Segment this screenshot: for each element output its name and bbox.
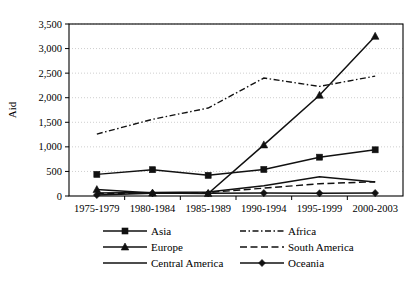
x-axis-ticks: 1975-19791980-19841985-19891990-19941995… xyxy=(74,196,398,214)
legend-item-south-america[interactable]: South America xyxy=(240,241,354,253)
y-tick-label: 1,500 xyxy=(38,117,62,128)
x-tick-label: 1990-1994 xyxy=(241,203,287,214)
series-asia xyxy=(94,147,378,179)
x-tick-label: 1995-1999 xyxy=(297,203,343,214)
y-tick-label: 3,500 xyxy=(38,19,62,30)
marker-square xyxy=(261,166,267,172)
aid-line-chart: 05001,0001,5002,0002,5003,0003,5001975-1… xyxy=(0,0,414,283)
y-tick-label: 0 xyxy=(57,191,62,202)
series-path xyxy=(97,193,375,195)
legend-label: Africa xyxy=(288,225,316,237)
legend-item-oceania[interactable]: Oceania xyxy=(240,257,324,269)
series-africa xyxy=(97,76,375,134)
marker-square xyxy=(205,172,211,178)
chart-legend: AsiaAfricaEuropeSouth AmericaCentral Ame… xyxy=(103,225,354,269)
x-tick-label: 1985-1989 xyxy=(185,203,231,214)
series-group xyxy=(93,32,379,198)
y-axis-ticks: 05001,0001,5002,0002,5003,0003,500 xyxy=(38,19,69,202)
y-axis-title: Aid xyxy=(6,101,18,118)
marker-square xyxy=(122,228,128,234)
legend-label: Europe xyxy=(151,241,183,253)
chart-container: 05001,0001,5002,0002,5003,0003,5001975-1… xyxy=(0,0,414,283)
legend-label: Oceania xyxy=(288,257,324,269)
legend-item-europe[interactable]: Europe xyxy=(103,241,183,253)
marker-square xyxy=(372,147,378,153)
x-tick-label: 1980-1984 xyxy=(130,203,176,214)
series-path xyxy=(97,76,375,134)
y-tick-label: 2,500 xyxy=(38,68,62,79)
y-tick-label: 3,000 xyxy=(38,43,62,54)
legend-item-asia[interactable]: Asia xyxy=(103,225,171,237)
series-path xyxy=(97,36,375,193)
legend-label: Asia xyxy=(151,225,171,237)
marker-square xyxy=(317,154,323,160)
marker-square xyxy=(150,167,156,173)
marker-diamond xyxy=(259,259,266,266)
marker-square xyxy=(94,171,100,177)
legend-label: Central America xyxy=(151,257,224,269)
y-axis-gridlines xyxy=(69,24,403,171)
y-tick-label: 500 xyxy=(46,166,62,177)
x-tick-label: 1975-1979 xyxy=(74,203,120,214)
y-tick-label: 1,000 xyxy=(38,141,62,152)
marker-triangle xyxy=(371,32,379,39)
legend-label: South America xyxy=(288,241,354,253)
x-tick-label: 2000-2003 xyxy=(352,203,398,214)
legend-item-central-america[interactable]: Central America xyxy=(103,257,224,269)
legend-item-africa[interactable]: Africa xyxy=(240,225,316,237)
y-tick-label: 2,000 xyxy=(38,92,62,103)
